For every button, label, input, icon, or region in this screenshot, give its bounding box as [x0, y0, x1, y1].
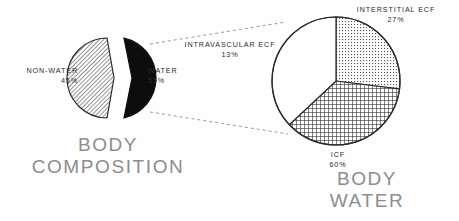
label-intravascular-ecf-name: INTRAVASCULAR ECF — [185, 40, 276, 49]
label-interstitial-ecf-pct: 27% — [340, 15, 452, 25]
chart-title-body-composition-line2: COMPOSITION — [16, 156, 200, 178]
label-icf-name: ICF — [331, 150, 345, 159]
chart-title-body-composition-line1: BODY — [16, 134, 200, 156]
pie-body-water — [272, 17, 400, 145]
chart-title-body-composition: BODY COMPOSITION — [16, 134, 200, 178]
label-icf: ICF 60% — [316, 150, 360, 169]
label-non-water-name: NON-WATER — [26, 66, 78, 75]
label-intravascular-ecf: INTRAVASCULAR ECF 13% — [178, 40, 282, 59]
label-water-name: WATER — [148, 66, 178, 75]
label-non-water: NON-WATER 45% — [4, 66, 78, 85]
label-interstitial-ecf-name: INTERSTITIAL ECF — [357, 5, 435, 14]
chart-title-body-water-line2: WATER — [292, 190, 442, 212]
connector-line-lower — [150, 112, 288, 134]
label-intravascular-ecf-pct: 13% — [178, 50, 282, 60]
pie-slice-interstitial-ecf[interactable] — [336, 17, 400, 89]
chart-title-body-water-line1: BODY — [292, 168, 442, 190]
label-non-water-pct: 45% — [4, 76, 78, 86]
label-water-pct: 55% — [148, 76, 208, 86]
pie-body-composition — [67, 38, 156, 118]
chart-title-body-water: BODY WATER — [292, 168, 442, 212]
label-interstitial-ecf: INTERSTITIAL ECF 27% — [340, 5, 452, 24]
label-water: WATER 55% — [148, 66, 208, 85]
figure-body-composition-body-water: NON-WATER 45% WATER 55% INTRAVASCULAR EC… — [0, 0, 459, 221]
